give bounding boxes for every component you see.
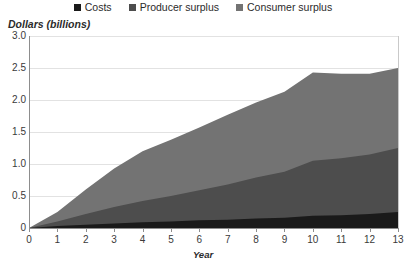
- x-tick: [284, 228, 285, 232]
- x-tick-label: 12: [358, 234, 382, 245]
- x-tick: [313, 228, 314, 232]
- x-tick-label: 6: [187, 234, 211, 245]
- x-tick-label: 5: [159, 234, 183, 245]
- x-tick: [114, 228, 115, 232]
- x-tick: [171, 228, 172, 232]
- x-tick-label: 2: [74, 234, 98, 245]
- legend-label-producer-surplus: Producer surplus: [140, 2, 219, 13]
- x-tick: [256, 228, 257, 232]
- x-tick: [57, 228, 58, 232]
- y-tick-label: 1.5: [0, 127, 26, 137]
- x-tick: [29, 228, 30, 232]
- x-tick: [341, 228, 342, 232]
- x-tick-label: 8: [244, 234, 268, 245]
- y-tick-label: 2.5: [0, 63, 26, 73]
- x-tick-label: 13: [386, 234, 406, 245]
- y-tick-label: 0.5: [0, 191, 26, 201]
- legend-swatch-producer-surplus: [129, 4, 136, 11]
- legend-item-costs[interactable]: Costs: [74, 2, 112, 13]
- y-tick-label: 1.0: [0, 159, 26, 169]
- x-tick-label: 9: [272, 234, 296, 245]
- x-tick-label: 3: [102, 234, 126, 245]
- plot-area: [29, 36, 398, 228]
- legend-swatch-costs: [74, 4, 81, 11]
- x-tick: [143, 228, 144, 232]
- x-tick-label: 1: [45, 234, 69, 245]
- y-tick-label: 2.0: [0, 95, 26, 105]
- x-axis-tick-labels: 012345678910111213: [0, 234, 406, 247]
- x-tick: [228, 228, 229, 232]
- legend-item-consumer-surplus[interactable]: Consumer surplus: [236, 2, 332, 13]
- legend-swatch-consumer-surplus: [236, 4, 243, 11]
- legend-label-consumer-surplus: Consumer surplus: [247, 2, 332, 13]
- legend-item-producer-surplus[interactable]: Producer surplus: [129, 2, 219, 13]
- y-tick-label: 3.0: [0, 31, 26, 41]
- x-tick-label: 4: [131, 234, 155, 245]
- plot-right-border: [398, 36, 399, 229]
- x-axis-ticks: [29, 228, 399, 233]
- x-tick: [370, 228, 371, 232]
- x-tick-label: 10: [301, 234, 325, 245]
- x-tick-label: 0: [17, 234, 41, 245]
- x-tick-label: 7: [216, 234, 240, 245]
- legend-label-costs: Costs: [85, 2, 112, 13]
- stacked-area-series: [29, 36, 398, 228]
- x-axis-title: Year: [0, 249, 406, 260]
- x-tick-label: 11: [329, 234, 353, 245]
- area-chart: Costs Producer surplus Consumer surplus …: [0, 0, 406, 268]
- y-axis-line: [29, 36, 30, 229]
- x-tick: [199, 228, 200, 232]
- chart-legend: Costs Producer surplus Consumer surplus: [0, 0, 406, 15]
- y-tick-label: 0: [0, 223, 26, 233]
- x-tick: [398, 228, 399, 232]
- y-axis-tick-labels: 00.51.01.52.02.53.0: [0, 0, 26, 268]
- x-tick: [86, 228, 87, 232]
